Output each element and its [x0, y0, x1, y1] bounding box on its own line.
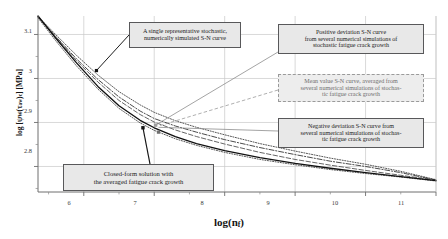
- x-tick-6: 6: [60, 199, 78, 206]
- s-n-curve-figure: 3.1 3 2.9 2.8 6 7 8 9 10 11 log [ψW(τaw)…: [0, 0, 448, 239]
- x-tick-7: 7: [126, 199, 144, 206]
- callout-line: Negative deviation S-N curve from: [308, 123, 394, 130]
- callout-positive-deviation: Positive deviation S-N curve from severa…: [278, 24, 424, 54]
- callout-mean-value: Mean value S-N curve, averaged from seve…: [278, 74, 424, 102]
- y-axis-label-text: log [ψW(τaw)c] [MPa]: [15, 69, 24, 136]
- callout-line: stochastic fatigue crack growth: [313, 42, 389, 49]
- callout-single-representative: A single representative stochastic, nume…: [129, 22, 241, 48]
- callout-line: from several numerical simulations of: [305, 36, 398, 43]
- callout-closed-form: Closed-form solution with the averaged f…: [63, 164, 214, 191]
- callout-line: the averaged fatigue crack growth: [94, 178, 184, 185]
- x-tick-10: 10: [326, 199, 344, 206]
- x-tick-9: 9: [259, 199, 277, 206]
- x-tick-11: 11: [392, 199, 410, 206]
- callout-line: several numerical simulations of stochas…: [301, 130, 402, 137]
- y-axis-label: log [ψW(τaw)c] [MPa]: [15, 48, 24, 158]
- callout-line: tic fatigue crack growth: [322, 91, 380, 98]
- callout-line: Positive deviation S-N curve: [316, 29, 386, 36]
- x-tick-8: 8: [193, 199, 211, 206]
- x-axis-label: log(nf): [169, 216, 289, 229]
- callout-line: Mean value S-N curve, averaged from: [304, 78, 397, 85]
- callout-negative-deviation: Negative deviation S-N curve from severa…: [278, 118, 424, 148]
- y-tick-3.1: 3.1: [14, 27, 32, 34]
- x-axis-label-text: log(nf): [214, 216, 244, 228]
- callout-line: tic fatigue crack growth: [322, 136, 380, 143]
- callout-line: Closed-form solution with: [104, 170, 174, 177]
- callout-line: numerically simulated S-N curve: [144, 35, 226, 42]
- callout-line: several numerical simulations of stochas…: [301, 85, 402, 92]
